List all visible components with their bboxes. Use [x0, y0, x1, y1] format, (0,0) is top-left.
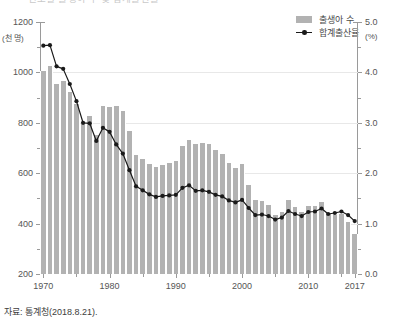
- data-point-marker: [194, 189, 198, 193]
- x-axis-tick-label: 1970: [33, 281, 53, 291]
- data-point-marker: [326, 212, 330, 216]
- data-point-marker: [147, 192, 151, 196]
- right-axis-minor-tick: [358, 198, 361, 199]
- data-point-marker: [266, 214, 270, 218]
- line-series-fertility-rate: [40, 22, 358, 274]
- data-point-marker: [180, 186, 184, 190]
- right-axis-tick: [358, 22, 362, 23]
- x-axis-minor-tick: [143, 274, 144, 277]
- right-axis-tick-label: 3.0: [365, 118, 378, 128]
- x-axis-minor-tick: [275, 274, 276, 277]
- right-axis-minor-tick: [358, 148, 361, 149]
- data-point-marker: [293, 212, 297, 216]
- data-point-marker: [187, 183, 191, 187]
- right-axis-tick: [358, 72, 362, 73]
- data-point-marker: [154, 195, 158, 199]
- x-axis-tick-label: 2010: [298, 281, 318, 291]
- right-axis-unit-label: (%): [365, 32, 377, 41]
- data-point-marker: [346, 213, 350, 217]
- data-point-marker: [220, 194, 224, 198]
- source-note: 자료: 통계청(2018.8.21).: [4, 305, 98, 318]
- data-point-marker: [339, 209, 343, 213]
- data-point-marker: [247, 206, 251, 210]
- right-axis-minor-tick: [358, 98, 361, 99]
- right-axis-tick: [358, 173, 362, 174]
- data-point-marker: [333, 211, 337, 215]
- data-point-marker: [260, 212, 264, 216]
- data-point-marker: [54, 64, 58, 68]
- right-axis-minor-tick: [358, 249, 361, 250]
- x-axis-tick-label: 1980: [100, 281, 120, 291]
- left-axis-tick-label: 600: [18, 168, 33, 178]
- data-point-marker: [107, 130, 111, 134]
- data-point-marker: [101, 126, 105, 130]
- data-point-marker: [61, 67, 65, 71]
- x-axis-tick-label: 2017: [345, 281, 365, 291]
- plot-area: 120010008006004002005.04.03.02.01.00.019…: [40, 22, 358, 274]
- data-point-marker: [286, 209, 290, 213]
- x-axis-tick: [110, 274, 111, 278]
- data-point-marker: [207, 190, 211, 194]
- x-axis-minor-tick: [76, 274, 77, 277]
- data-point-marker: [227, 198, 231, 202]
- data-point-marker: [353, 219, 357, 223]
- data-point-marker: [200, 188, 204, 192]
- left-axis-tick-label: 200: [18, 269, 33, 279]
- right-axis-tick-label: 5.0: [365, 17, 378, 27]
- x-axis-minor-tick: [341, 274, 342, 277]
- x-axis-tick: [43, 274, 44, 278]
- left-axis-tick-label: 1200: [13, 17, 33, 27]
- data-point-marker: [313, 209, 317, 213]
- data-point-marker: [68, 82, 72, 86]
- data-point-marker: [94, 139, 98, 143]
- left-axis-tick: [36, 274, 40, 275]
- left-axis-tick-label: 1000: [13, 67, 33, 77]
- x-axis-minor-tick: [209, 274, 210, 277]
- x-axis-tick-label: 1990: [166, 281, 186, 291]
- right-axis-tick: [358, 123, 362, 124]
- data-point-marker: [114, 142, 118, 146]
- data-point-marker: [306, 210, 310, 214]
- data-point-marker: [213, 193, 217, 197]
- data-point-marker: [134, 184, 138, 188]
- data-point-marker: [160, 194, 164, 198]
- left-axis-unit-label: (천 명): [2, 32, 24, 43]
- chart-title-clipped: 연도별 출생아 수 및 합계출산율: [28, 0, 278, 3]
- x-axis-tick: [176, 274, 177, 278]
- data-point-marker: [174, 193, 178, 197]
- data-point-marker: [141, 188, 145, 192]
- right-axis-tick: [358, 224, 362, 225]
- data-point-marker: [240, 198, 244, 202]
- data-point-marker: [88, 121, 92, 125]
- x-axis-tick: [242, 274, 243, 278]
- data-point-marker: [74, 99, 78, 103]
- right-axis-tick-label: 4.0: [365, 67, 378, 77]
- data-point-marker: [233, 200, 237, 204]
- data-point-marker: [127, 168, 131, 172]
- data-point-marker: [167, 193, 171, 197]
- data-point-marker: [273, 217, 277, 221]
- left-axis-tick-label: 800: [18, 118, 33, 128]
- data-point-marker: [319, 206, 323, 210]
- data-point-marker: [280, 215, 284, 219]
- right-axis-minor-tick: [358, 47, 361, 48]
- data-point-marker: [300, 214, 304, 218]
- data-point-marker: [48, 43, 52, 47]
- figure-births-and-fertility-rate: 연도별 출생아 수 및 합계출산율 (천 명) (%) 출생아 수 합계출산율 …: [0, 0, 417, 325]
- data-point-marker: [253, 213, 257, 217]
- x-axis-tick-label: 2000: [232, 281, 252, 291]
- right-axis-tick-label: 0.0: [365, 269, 378, 279]
- data-point-marker: [121, 151, 125, 155]
- right-axis-tick-label: 1.0: [365, 219, 378, 229]
- x-axis-tick: [308, 274, 309, 278]
- fertility-rate-polyline: [43, 45, 354, 221]
- right-axis-tick-label: 2.0: [365, 168, 378, 178]
- data-point-marker: [81, 121, 85, 125]
- x-axis-tick: [355, 274, 356, 278]
- data-point-marker: [41, 44, 45, 48]
- right-axis-tick: [358, 274, 362, 275]
- left-axis-tick-label: 400: [18, 219, 33, 229]
